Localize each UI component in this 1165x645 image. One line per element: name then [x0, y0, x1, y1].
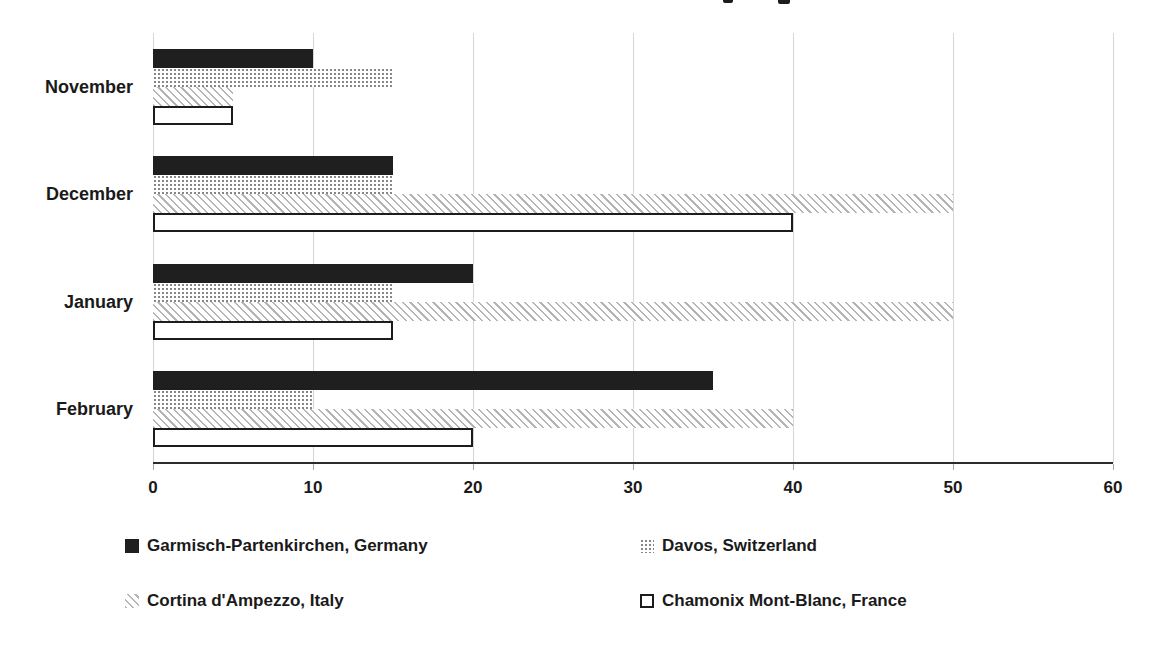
- bar-february-white-outline: [153, 428, 473, 447]
- bar-chart-page: NovemberDecemberJanuaryFebruary 01020304…: [0, 0, 1165, 645]
- gridline-10: [313, 33, 314, 463]
- gridline-60: [1113, 33, 1114, 463]
- bar-december-diagonal-hatch: [153, 194, 953, 213]
- legend-label: Davos, Switzerland: [662, 536, 817, 556]
- bar-january-diagonal-hatch: [153, 302, 953, 321]
- x-tick-label-50: 50: [944, 477, 963, 499]
- x-tick-label-0: 0: [148, 477, 157, 499]
- gridline-30: [633, 33, 634, 463]
- legend-marker-solid-black-icon: [125, 539, 139, 553]
- plot-area: [153, 33, 1113, 463]
- bar-december-white-outline: [153, 213, 793, 232]
- x-tick-label-20: 20: [464, 477, 483, 499]
- x-tick-label-60: 60: [1104, 477, 1123, 499]
- category-label-november: November: [45, 76, 133, 98]
- gridline-50: [953, 33, 954, 463]
- tick-mark-20: [473, 464, 474, 470]
- bar-january-solid-black: [153, 264, 473, 283]
- tick-mark-30: [633, 464, 634, 470]
- bar-november-diagonal-hatch: [153, 87, 233, 106]
- gridline-40: [793, 33, 794, 463]
- x-tick-label-30: 30: [624, 477, 643, 499]
- x-tick-label-40: 40: [784, 477, 803, 499]
- legend-label: Cortina d'Ampezzo, Italy: [147, 591, 344, 611]
- legend-label: Garmisch-Partenkirchen, Germany: [147, 536, 428, 556]
- bar-january-dotted-gray: [153, 283, 393, 302]
- bar-november-dotted-gray: [153, 68, 393, 87]
- tick-mark-0: [153, 464, 154, 470]
- x-axis-line: [153, 462, 1113, 464]
- legend-item-dotted-gray: Davos, Switzerland: [640, 534, 817, 558]
- x-tick-label-10: 10: [304, 477, 323, 499]
- bar-december-dotted-gray: [153, 175, 393, 194]
- tick-mark-40: [793, 464, 794, 470]
- legend-item-solid-black: Garmisch-Partenkirchen, Germany: [125, 534, 428, 558]
- cropped-title-remnant: [778, 0, 790, 4]
- bar-december-solid-black: [153, 156, 393, 175]
- legend-item-diagonal-hatch: Cortina d'Ampezzo, Italy: [125, 589, 344, 613]
- category-label-january: January: [64, 291, 133, 313]
- legend-marker-dotted-gray-icon: [640, 539, 654, 553]
- legend-marker-diagonal-hatch-icon: [125, 594, 139, 608]
- cropped-title-remnant: [723, 0, 733, 3]
- bar-february-dotted-gray: [153, 390, 313, 409]
- legend-item-white-outline: Chamonix Mont-Blanc, France: [640, 589, 907, 613]
- bar-february-solid-black: [153, 371, 713, 390]
- gridline-20: [473, 33, 474, 463]
- category-label-december: December: [46, 183, 133, 205]
- bar-january-white-outline: [153, 321, 393, 340]
- bar-november-white-outline: [153, 106, 233, 125]
- category-axis: NovemberDecemberJanuaryFebruary: [0, 33, 133, 463]
- bar-february-diagonal-hatch: [153, 409, 793, 428]
- category-label-february: February: [56, 398, 133, 420]
- legend-marker-white-outline-icon: [640, 594, 654, 608]
- legend-label: Chamonix Mont-Blanc, France: [662, 591, 907, 611]
- tick-mark-10: [313, 464, 314, 470]
- tick-mark-50: [953, 464, 954, 470]
- bar-november-solid-black: [153, 49, 313, 68]
- tick-mark-60: [1113, 464, 1114, 470]
